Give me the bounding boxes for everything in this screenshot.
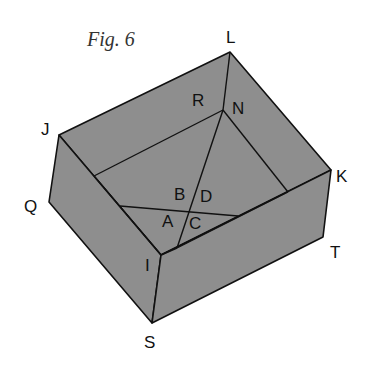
box-diagram: Fig. 6 L R N J K Q I T S B D A C [0, 0, 375, 376]
angle-label-D: D [200, 187, 212, 206]
angle-label-B: B [174, 185, 185, 204]
vertex-label-I: I [145, 256, 150, 275]
vertex-label-N: N [232, 99, 244, 118]
vertex-label-R: R [192, 91, 204, 110]
angle-label-A: A [162, 212, 174, 231]
vertex-label-S: S [144, 333, 155, 352]
angle-label-C: C [189, 214, 201, 233]
vertex-label-Q: Q [24, 197, 37, 216]
vertex-label-L: L [226, 28, 235, 47]
figure-title: Fig. 6 [86, 28, 135, 51]
vertex-label-T: T [330, 243, 340, 262]
vertex-label-K: K [336, 167, 348, 186]
vertex-label-J: J [41, 120, 50, 139]
